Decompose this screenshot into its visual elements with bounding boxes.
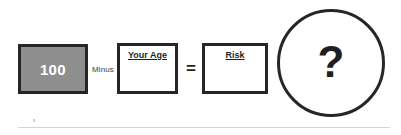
risk-result-box[interactable]: Risk xyxy=(202,43,268,94)
question-circle[interactable]: ? xyxy=(277,9,385,117)
equals-operator-label: = xyxy=(182,60,200,77)
formula-slide: 100 Minus Your Age = Risk ? xyxy=(0,0,401,135)
scan-artifact-speck xyxy=(33,119,35,122)
constant-value-box[interactable]: 100 xyxy=(18,44,88,94)
question-mark-icon: ? xyxy=(318,40,345,84)
risk-label: Risk xyxy=(225,51,244,60)
minus-operator-label: Minus xyxy=(90,66,116,74)
constant-value-text: 100 xyxy=(40,62,66,77)
your-age-input-box[interactable]: Your Age xyxy=(117,43,178,94)
bottom-divider xyxy=(18,127,390,128)
your-age-label: Your Age xyxy=(128,51,167,60)
